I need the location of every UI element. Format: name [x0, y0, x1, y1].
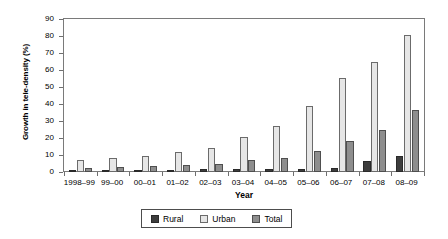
- x-tick-mark: [391, 172, 392, 176]
- x-axis-tick-labels: 1998–9999–0000–0101–0202–0303–0404–0505–…: [63, 177, 425, 191]
- bar-group: [359, 19, 392, 172]
- x-tick-mark: [64, 172, 65, 176]
- legend-swatch-icon: [252, 215, 260, 223]
- bar-urban: [208, 148, 215, 172]
- x-tick-mark: [228, 172, 229, 176]
- bar-group: [293, 19, 326, 172]
- x-tick-mark: [359, 172, 360, 176]
- bar-group: [260, 19, 293, 172]
- bar-group: [326, 19, 359, 172]
- bar-urban: [404, 35, 411, 172]
- bar-urban: [371, 62, 378, 173]
- y-tick-label: 60: [14, 65, 54, 74]
- bar-urban: [109, 158, 116, 172]
- y-tick-label: 70: [14, 48, 54, 57]
- x-axis-title: Year: [63, 190, 425, 200]
- x-tick-mark: [326, 172, 327, 176]
- bar-urban: [306, 106, 313, 172]
- bar-total: [379, 130, 386, 173]
- y-tick-label: 40: [14, 99, 54, 108]
- bar-total: [281, 158, 288, 172]
- bar-total: [248, 160, 255, 172]
- legend-label: Total: [264, 214, 282, 224]
- y-tick-label: 20: [14, 133, 54, 142]
- legend-entry-total[interactable]: Total: [252, 214, 282, 224]
- y-axis-ticks: 0102030405060708090: [0, 0, 63, 239]
- bar-group: [195, 19, 228, 172]
- bar-group: [391, 19, 424, 172]
- legend-label: Urban: [212, 214, 235, 224]
- x-tick-mark: [162, 172, 163, 176]
- bar-urban: [175, 152, 182, 172]
- bar-total: [346, 141, 353, 172]
- bar-urban: [339, 78, 346, 172]
- bar-urban: [77, 160, 84, 172]
- x-tick-mark: [424, 172, 425, 176]
- bar-urban: [142, 156, 149, 172]
- bar-total: [314, 151, 321, 172]
- y-tick-label: 10: [14, 150, 54, 159]
- bar-total: [183, 165, 190, 172]
- x-tick-mark: [97, 172, 98, 176]
- bar-urban: [240, 137, 247, 172]
- bar-chart: Growth in tele-density (%) 0102030405060…: [0, 0, 448, 239]
- bar-rural: [396, 156, 403, 172]
- bar-urban: [273, 126, 280, 172]
- x-tick-mark: [260, 172, 261, 176]
- legend-label: Rural: [163, 214, 183, 224]
- bar-group: [162, 19, 195, 172]
- bar-total: [215, 164, 222, 173]
- legend-swatch-icon: [151, 215, 159, 223]
- x-tick-mark: [195, 172, 196, 176]
- bar-total: [412, 110, 419, 172]
- bar-rural: [363, 161, 370, 172]
- chart-legend: RuralUrbanTotal: [141, 209, 292, 228]
- y-tick-label: 30: [14, 116, 54, 125]
- legend-swatch-icon: [200, 215, 208, 223]
- bars-layer: [64, 19, 424, 172]
- y-tick-label: 0: [14, 167, 54, 176]
- x-tick-mark: [129, 172, 130, 176]
- bar-group: [129, 19, 162, 172]
- bar-group: [64, 19, 97, 172]
- x-tick-label: 08–09: [384, 177, 429, 188]
- bar-group: [228, 19, 261, 172]
- y-tick-label: 80: [14, 31, 54, 40]
- legend-entry-rural[interactable]: Rural: [151, 214, 183, 224]
- y-tick-label: 50: [14, 82, 54, 91]
- legend-entry-urban[interactable]: Urban: [200, 214, 235, 224]
- x-tick-mark: [293, 172, 294, 176]
- bar-group: [97, 19, 130, 172]
- y-tick-label: 90: [14, 14, 54, 23]
